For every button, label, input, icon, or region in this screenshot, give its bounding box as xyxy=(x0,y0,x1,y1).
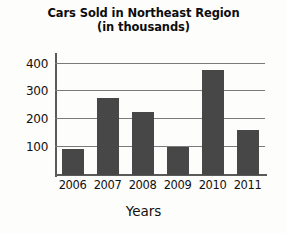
bar-2009 xyxy=(167,147,189,175)
bar-2010 xyxy=(202,70,224,175)
gridline xyxy=(55,118,265,119)
chart-title-block: Cars Sold in Northeast Region (in thousa… xyxy=(0,7,287,34)
y-axis-tick-label: 100 xyxy=(0,140,48,154)
x-axis-tick-label-2006: 2006 xyxy=(54,178,92,192)
x-axis-tick-label-2011: 2011 xyxy=(229,178,267,192)
x-axis-tick-label-2009: 2009 xyxy=(159,178,197,192)
x-axis-tick-label-2007: 2007 xyxy=(89,178,127,192)
y-axis-tick-label: 200 xyxy=(0,112,48,126)
bar-2006 xyxy=(62,149,84,175)
bar-chart: Cars Sold in Northeast Region (in thousa… xyxy=(0,0,287,233)
bar-2011 xyxy=(237,130,259,175)
chart-subtitle: (in thousands) xyxy=(0,21,287,35)
bar-2008 xyxy=(132,112,154,175)
y-axis-tick-label: 400 xyxy=(0,57,48,71)
gridline xyxy=(55,63,265,64)
gridline xyxy=(55,146,265,147)
gridline xyxy=(55,90,265,91)
x-axis-tick-label-2008: 2008 xyxy=(124,178,162,192)
chart-title: Cars Sold in Northeast Region xyxy=(0,7,287,21)
x-axis-tick-label-2010: 2010 xyxy=(194,178,232,192)
plot-area xyxy=(55,58,265,175)
y-axis-tick-label: 300 xyxy=(0,84,48,98)
x-axis-title: Years xyxy=(0,203,287,219)
bar-2007 xyxy=(97,98,119,175)
